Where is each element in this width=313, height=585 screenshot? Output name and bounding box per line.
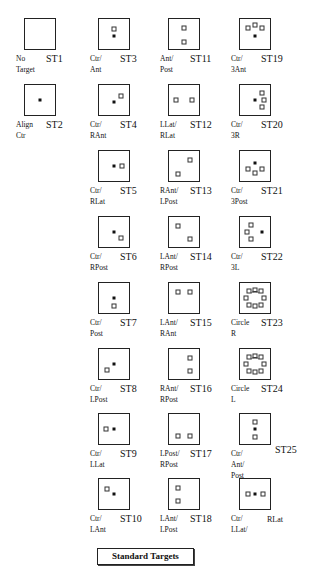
target-code: ST15 bbox=[190, 317, 212, 328]
target-marker-icon bbox=[244, 362, 249, 367]
target-marker-icon bbox=[188, 236, 193, 241]
target-marker-icon bbox=[176, 171, 181, 176]
center-dot-icon bbox=[113, 34, 116, 37]
target-label: Ctr/ bbox=[90, 54, 102, 64]
target-marker-icon bbox=[246, 26, 251, 31]
target-marker-icon bbox=[247, 302, 252, 307]
target-box bbox=[24, 84, 56, 116]
center-dot-icon bbox=[260, 231, 263, 234]
target-marker-icon bbox=[188, 290, 193, 295]
target-box bbox=[98, 282, 130, 314]
center-dot-icon bbox=[113, 297, 116, 300]
arc-icon bbox=[251, 291, 259, 297]
target-label: 3Post bbox=[231, 197, 248, 207]
target-label: R bbox=[231, 329, 236, 339]
target-label: RAnt bbox=[160, 329, 176, 339]
target-box bbox=[98, 216, 130, 248]
target-marker-icon bbox=[259, 104, 264, 109]
target-label: LLat/ bbox=[231, 525, 248, 535]
target-label: 3L bbox=[231, 263, 239, 273]
target-label: Ctr bbox=[16, 131, 26, 141]
target-label: RAnt bbox=[90, 131, 106, 141]
target-marker-icon bbox=[176, 290, 181, 295]
target-marker-icon bbox=[259, 302, 264, 307]
target-code: ST21 bbox=[261, 185, 283, 196]
target-label: RPost bbox=[90, 263, 108, 273]
target-label: LAnt/ bbox=[160, 514, 178, 524]
center-dot-icon bbox=[113, 165, 116, 168]
target-label: Post bbox=[90, 329, 103, 339]
center-dot-icon bbox=[113, 231, 116, 234]
target-label: Ctr/ bbox=[90, 514, 102, 524]
target-label: RLat bbox=[160, 131, 175, 141]
target-marker-icon bbox=[118, 93, 123, 98]
target-box bbox=[239, 282, 271, 314]
target-code: ST8 bbox=[120, 383, 137, 394]
target-label: LLat/ bbox=[160, 120, 177, 130]
target-box bbox=[239, 84, 271, 116]
target-label: LPost bbox=[90, 395, 108, 405]
target-code: ST19 bbox=[261, 53, 283, 64]
target-box bbox=[168, 216, 200, 248]
target-label: RAnt/ bbox=[160, 186, 178, 196]
target-marker-icon bbox=[253, 170, 258, 175]
target-label: Ctr/ bbox=[231, 54, 243, 64]
target-code: ST5 bbox=[120, 185, 137, 196]
target-marker-icon bbox=[112, 26, 117, 31]
target-code: ST17 bbox=[190, 448, 212, 459]
target-marker-icon bbox=[259, 368, 264, 373]
target-marker-icon bbox=[262, 296, 267, 301]
target-box bbox=[168, 18, 200, 50]
target-marker-icon bbox=[182, 39, 187, 44]
target-code: ST11 bbox=[190, 53, 211, 64]
target-label: Ant/ bbox=[231, 460, 244, 470]
target-label: Ctr/ bbox=[231, 449, 243, 459]
target-code: ST1 bbox=[46, 53, 63, 64]
center-dot-icon bbox=[113, 493, 116, 496]
target-code: ST7 bbox=[120, 317, 137, 328]
standard-targets-title: Standard Targets bbox=[97, 548, 194, 565]
target-label: L bbox=[231, 395, 236, 405]
target-label: 3Ant bbox=[231, 65, 246, 75]
target-marker-icon bbox=[262, 362, 267, 367]
target-box bbox=[168, 348, 200, 380]
center-dot-icon bbox=[113, 100, 116, 103]
target-label: Ant bbox=[90, 65, 101, 75]
target-box bbox=[239, 216, 271, 248]
target-marker-icon bbox=[259, 355, 264, 360]
target-label: Ctr/ bbox=[90, 318, 102, 328]
target-marker-icon bbox=[259, 26, 264, 31]
target-code: ST25 bbox=[275, 444, 297, 455]
target-box bbox=[98, 478, 130, 510]
target-marker-icon bbox=[246, 167, 251, 172]
center-dot-icon bbox=[113, 428, 116, 431]
target-marker-icon bbox=[248, 223, 253, 228]
target-marker-icon bbox=[247, 368, 252, 373]
target-label: Ctr/ bbox=[231, 252, 243, 262]
target-marker-icon bbox=[176, 486, 181, 491]
target-label: Ctr/ bbox=[231, 514, 243, 524]
target-marker-icon bbox=[182, 26, 187, 31]
target-box bbox=[98, 348, 130, 380]
target-label: No bbox=[16, 54, 25, 64]
target-marker-icon bbox=[173, 98, 178, 103]
target-label: RPost bbox=[160, 263, 178, 273]
target-code: ST9 bbox=[120, 448, 137, 459]
target-code: ST18 bbox=[190, 513, 212, 524]
target-label: LPost/ bbox=[160, 449, 180, 459]
target-code: ST14 bbox=[190, 251, 212, 262]
target-marker-icon bbox=[253, 304, 258, 309]
target-label: Circle bbox=[231, 318, 249, 328]
target-box bbox=[168, 413, 200, 445]
target-marker-icon bbox=[259, 91, 264, 96]
target-marker-icon bbox=[259, 167, 264, 172]
target-marker-icon bbox=[245, 492, 250, 497]
target-label: 3R bbox=[231, 131, 240, 141]
target-label: Circle bbox=[231, 384, 249, 394]
target-box bbox=[98, 413, 130, 445]
target-code: RLat bbox=[267, 514, 283, 525]
target-box bbox=[168, 282, 200, 314]
target-marker-icon bbox=[105, 368, 110, 373]
target-marker-icon bbox=[120, 164, 125, 169]
target-marker-icon bbox=[190, 98, 195, 103]
